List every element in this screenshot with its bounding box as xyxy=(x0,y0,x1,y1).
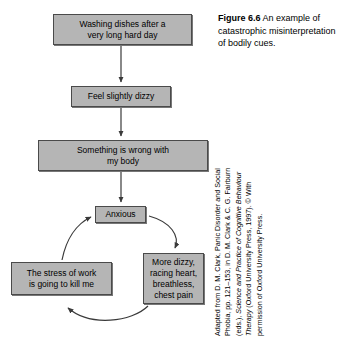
node-washing-dishes: Washing dishes after a very long hard da… xyxy=(53,14,192,45)
attribution-line-2: Phobia, pp. 121–153, in D. M. Clark & C.… xyxy=(223,104,233,336)
attribution-line-4-italic: Therapy xyxy=(244,310,253,336)
figure-number: Figure 6.6 xyxy=(218,13,261,23)
node-stress-of-work: The stress of work is going to kill me xyxy=(11,262,112,295)
attribution-line-4-rest: (Oxford University Press, 1997). © With xyxy=(244,182,253,310)
figure-caption: Figure 6.6 An example of catastrophic mi… xyxy=(218,12,338,50)
node-feel-slightly-dizzy: Feel slightly dizzy xyxy=(71,86,171,107)
attribution-line-3: (eds.), Science and Practice of Cognitiv… xyxy=(234,104,244,336)
arrow-symptoms-to-stress xyxy=(68,306,148,320)
source-attribution: Adapted from D. M. Clark, Panic Disorder… xyxy=(213,104,269,336)
attribution-line-4: Therapy (Oxford University Press, 1997).… xyxy=(244,104,254,336)
node-something-is-wrong: Something is wrong with my body xyxy=(38,140,208,171)
figure-container: Washing dishes after a very long hard da… xyxy=(0,0,345,341)
node-anxious: Anxious xyxy=(95,206,146,223)
attribution-line-5: permission of Oxford University Press. xyxy=(255,104,265,336)
node-physical-symptoms: More dizzy, racing heart, breathless, ch… xyxy=(143,253,204,304)
attribution-line-1: Adapted from D. M. Clark, Panic Disorder… xyxy=(213,104,223,336)
attribution-line-3-italic: Science and Practice of Cognitive Behavi… xyxy=(234,172,243,314)
arrow-stress-to-anxious xyxy=(62,217,91,260)
attribution-line-3-prefix: (eds.), xyxy=(234,314,243,336)
arrow-anxious-to-symptoms xyxy=(149,216,176,248)
